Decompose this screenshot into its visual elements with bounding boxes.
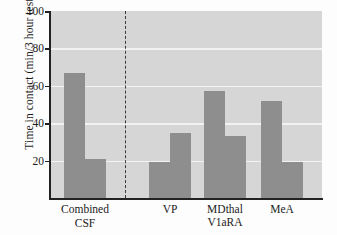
x-axis-label-line1: MDthal: [207, 202, 243, 216]
y-axis-tick-label: 20: [33, 155, 45, 167]
y-axis-ticks: 20406080100: [50, 11, 322, 198]
x-axis-label-line1: MeA: [270, 202, 294, 216]
y-axis-tick: [45, 86, 51, 88]
x-axis-label: MeA: [270, 202, 294, 216]
y-axis-tick: [45, 123, 51, 125]
x-axis-group-label: V1aRA: [207, 216, 242, 228]
y-axis-tick-label: 100: [27, 5, 44, 17]
x-axis-label: VP: [163, 202, 178, 216]
x-axis-label: MDthal: [207, 202, 243, 216]
chart-figure: Time in contact (min/3 hour test) 204060…: [0, 0, 337, 235]
y-axis-tick-label: 60: [33, 80, 45, 92]
x-axis-line: [49, 198, 323, 200]
y-axis-tick-label: 40: [33, 117, 45, 129]
x-axis-label-line2: CSF: [61, 216, 109, 230]
y-axis-tick: [45, 48, 51, 50]
y-axis-tick: [45, 11, 51, 13]
x-axis-label: CombinedCSF: [61, 202, 109, 230]
y-axis-tick: [45, 161, 51, 163]
y-axis-tick-label: 80: [33, 42, 45, 54]
x-axis-label-line1: VP: [163, 202, 178, 216]
x-axis-label-line1: Combined: [61, 202, 109, 216]
